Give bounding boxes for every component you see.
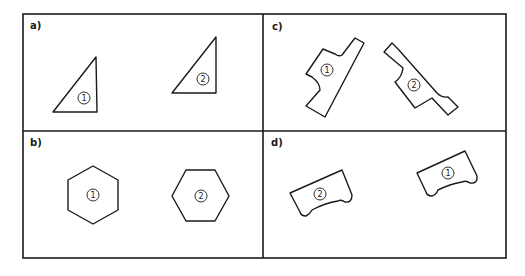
- marker-a1: 1: [81, 94, 86, 103]
- marker-c2: 2: [411, 81, 416, 90]
- marker-d1: 1: [445, 169, 450, 178]
- panel-d: d) 2 1: [271, 137, 477, 216]
- marker-c1: 1: [324, 66, 329, 75]
- panel-label-c: c): [272, 21, 283, 32]
- notched-bar-2: [384, 43, 458, 115]
- notched-bar-1: [306, 38, 364, 117]
- figure-canvas: a) 1 2 b) 1 2 c) 1 2 d) 2 1: [0, 0, 525, 276]
- panel-a: a) 1 2: [30, 20, 216, 112]
- marker-d2: 2: [317, 190, 322, 199]
- triangle-2: [172, 37, 216, 93]
- triangle-1: [53, 57, 97, 112]
- panel-label-b: b): [30, 137, 42, 148]
- marker-a2: 2: [200, 75, 205, 84]
- marker-b2: 2: [198, 192, 203, 201]
- panel-label-d: d): [271, 137, 283, 148]
- marker-b1: 1: [90, 191, 95, 200]
- panel-label-a: a): [30, 20, 41, 31]
- panel-c: c) 1 2: [272, 21, 458, 117]
- panel-b: b) 1 2: [30, 137, 229, 224]
